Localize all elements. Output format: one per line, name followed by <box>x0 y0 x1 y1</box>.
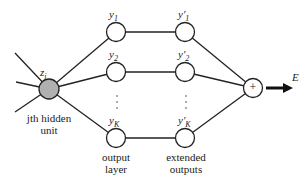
extended-outputs-caption: extended outputs <box>160 151 212 175</box>
hidden-unit-caption: jth hidden unit <box>18 112 80 136</box>
output-node-label-k: yK <box>109 114 119 131</box>
output-node-label-1: y1 <box>109 8 118 25</box>
output-layer-caption: output layer <box>96 151 136 175</box>
hidden-unit-label: zj <box>40 66 47 83</box>
sum-node-symbol: + <box>247 81 259 93</box>
extended-node-label-k: y′K <box>178 114 191 131</box>
extended-node-label-1: y′1 <box>178 8 189 25</box>
diagram-lines <box>0 0 307 179</box>
diagram-canvas: zj jth hidden unit y1 y2 yK output layer… <box>0 0 307 179</box>
extended-node-label-2: y′2 <box>178 48 189 65</box>
output-node-label-2: y2 <box>109 48 118 65</box>
error-output-label: E <box>292 71 299 83</box>
